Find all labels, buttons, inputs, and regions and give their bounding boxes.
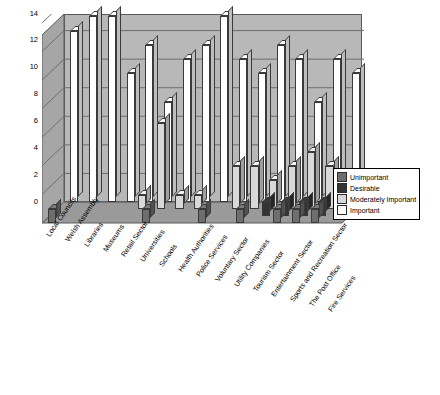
bar-side (191, 49, 196, 197)
bar-side (315, 142, 320, 204)
bar (127, 73, 135, 202)
y-tick-label: 12 (30, 36, 38, 44)
legend-item: Unimportant (337, 172, 416, 182)
bar-face (127, 73, 135, 202)
bar (236, 209, 244, 223)
bars-layer (42, 14, 372, 229)
x-axis-label: Utility Companies (233, 238, 272, 288)
bar (232, 166, 240, 209)
legend-item: Important (337, 205, 416, 215)
bar (273, 209, 281, 223)
bar-side (259, 156, 264, 204)
y-tick-label: 8 (34, 90, 38, 98)
bar-face (236, 209, 244, 223)
x-axis-label: Entertainment Sector (270, 238, 315, 298)
bar (311, 209, 319, 223)
y-axis: 14 12 10 8 6 4 2 0 (0, 0, 40, 230)
bar-face (292, 209, 300, 223)
bar-side (135, 63, 140, 197)
bar (198, 209, 206, 223)
y-tick-label: 2 (34, 171, 38, 179)
bar-face (183, 59, 191, 202)
x-axis-label: Sports and Recreation Sector (289, 221, 350, 303)
bar-side (240, 156, 245, 204)
bar-side (56, 199, 61, 218)
legend: Unimportant Desirable Moderately Importa… (333, 168, 420, 220)
x-axis-label: Health Authorities (176, 223, 215, 274)
x-axis-label: Fire Services (326, 274, 357, 313)
bar-face (262, 202, 270, 216)
y-tick-label: 0 (34, 198, 38, 206)
y-tick-label: 4 (34, 144, 38, 152)
y-tick-label: 6 (34, 117, 38, 125)
bar (250, 166, 258, 209)
bar-face (202, 45, 210, 202)
bar-side (296, 156, 301, 204)
y-tick-label: 10 (30, 63, 38, 71)
legend-item: Moderately Important (337, 194, 416, 204)
legend-swatch-important (337, 205, 347, 215)
bar (292, 209, 300, 223)
bar (220, 16, 228, 202)
legend-label: Unimportant (350, 174, 388, 181)
bar (175, 195, 183, 209)
bar (202, 45, 210, 202)
bar-face (232, 166, 240, 209)
bar-face (108, 16, 116, 202)
legend-swatch-unimportant (337, 172, 347, 182)
x-axis-label: Schools (158, 243, 179, 269)
bar (262, 202, 270, 216)
bar-face (175, 195, 183, 209)
bar (157, 123, 165, 209)
bar (89, 16, 97, 202)
legend-item: Desirable (337, 183, 416, 193)
x-axis-label: Universities (139, 228, 167, 263)
bar-face (157, 123, 165, 209)
bar-face (89, 16, 97, 202)
x-axis-label: Police Services (195, 233, 230, 278)
legend-label: Moderately Important (350, 196, 416, 203)
bar (70, 31, 78, 202)
bar-face (311, 209, 319, 223)
bar (142, 209, 150, 223)
x-axis-label: The Post Office (308, 263, 343, 308)
legend-swatch-desirable (337, 183, 347, 193)
bar-side (97, 6, 102, 197)
bar-side (210, 35, 215, 197)
bar-side (150, 199, 155, 218)
x-axis-label: Voluntary Sector (214, 235, 251, 283)
bar-chart: 14 12 10 8 6 4 2 0 Local CouncilsWelsh A… (0, 0, 440, 395)
bar (108, 16, 116, 202)
bar-face (250, 166, 258, 209)
bar-side (172, 92, 177, 197)
x-axis-label: Tourism Sector (251, 249, 285, 293)
bar (48, 209, 56, 223)
bar-side (244, 199, 249, 218)
bar-side (206, 199, 211, 218)
bar-side (165, 113, 170, 204)
bar-side (78, 20, 83, 197)
bar-face (142, 209, 150, 223)
bar (145, 45, 153, 202)
y-tick-label: 14 (30, 10, 38, 18)
bar-side (116, 6, 121, 197)
legend-label: Desirable (350, 185, 380, 192)
legend-label: Important (350, 207, 380, 214)
bar (183, 59, 191, 202)
legend-swatch-moderately-important (337, 194, 347, 204)
